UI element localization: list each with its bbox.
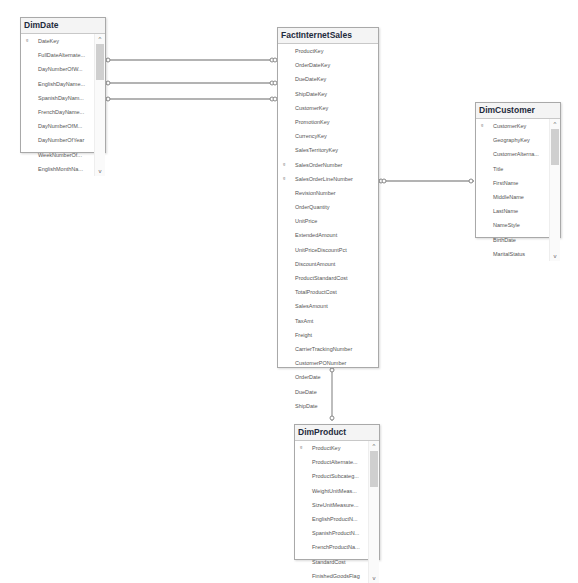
column-name: FinishedGoodsFlag — [312, 573, 360, 579]
column-row[interactable]: PromotionKey — [278, 115, 378, 129]
column-row[interactable]: SizeUnitMeasure... — [295, 498, 379, 512]
column-row[interactable]: SpanishProductN... — [295, 526, 379, 540]
column-row[interactable]: WeightUnitMeas... — [295, 484, 379, 498]
column-row[interactable]: CurrencyKey — [278, 129, 378, 143]
column-row[interactable]: MaritalStatus — [476, 247, 560, 261]
column-name: FullDateAlternate... — [38, 52, 85, 58]
column-row[interactable]: TaxAmt — [278, 314, 378, 328]
column-row[interactable]: ShipDate — [278, 399, 378, 413]
column-name: WeekNumberOf... — [38, 152, 82, 158]
scrollbar[interactable]: ^v — [368, 441, 379, 583]
column-row[interactable]: UnitPrice — [278, 214, 378, 228]
column-row[interactable]: SpanishDayNam... — [21, 91, 105, 105]
column-row[interactable]: Title — [476, 162, 560, 176]
column-row[interactable]: UnitPriceDiscountPct — [278, 243, 378, 257]
column-name: CustomerKey — [493, 123, 526, 129]
column-row[interactable]: SalesAmount — [278, 299, 378, 313]
scroll-up-icon[interactable]: ^ — [550, 119, 560, 129]
column-name: NameStyle — [493, 222, 520, 228]
column-row[interactable]: BirthDate — [476, 233, 560, 247]
column-row[interactable]: LastName — [476, 204, 560, 218]
column-name: BirthDate — [493, 237, 516, 243]
column-row[interactable]: CustomerKey — [278, 101, 378, 115]
column-name: DayNumberOfYear — [38, 137, 84, 143]
column-row[interactable]: ᵍSalesOrderLineNumber — [278, 172, 378, 186]
key-icon: ᵍ — [300, 441, 302, 455]
column-name: MiddleName — [493, 194, 524, 200]
column-row[interactable]: NameStyle — [476, 218, 560, 232]
column-name: Freight — [295, 332, 312, 338]
column-name: CustomerAlterna... — [493, 151, 539, 157]
column-row[interactable]: DayNumberOfW... — [21, 62, 105, 76]
column-row[interactable]: DiscountAmount — [278, 257, 378, 271]
column-row[interactable]: OrderDateKey — [278, 58, 378, 72]
column-row[interactable]: StandardCost — [295, 555, 379, 569]
column-row[interactable]: ᵍDateKey — [21, 34, 105, 48]
column-row[interactable]: CustomerPONumber — [278, 356, 378, 370]
column-row[interactable]: ProductAlternate... — [295, 455, 379, 469]
scroll-down-icon[interactable]: v — [369, 573, 379, 583]
column-row[interactable]: WeekNumberOf... — [21, 148, 105, 162]
column-row[interactable]: FirstName — [476, 176, 560, 190]
column-name: ProductAlternate... — [312, 459, 358, 465]
scroll-down-icon[interactable]: v — [550, 251, 560, 261]
column-row[interactable]: SalesTerritoryKey — [278, 143, 378, 157]
column-name: TotalProductCost — [295, 289, 337, 295]
column-row[interactable]: ProductSubcateg... — [295, 469, 379, 483]
column-row[interactable]: DayNumberOfM... — [21, 119, 105, 133]
column-row[interactable]: RevisionNumber — [278, 186, 378, 200]
column-name: DayNumberOfM... — [38, 123, 82, 129]
column-row[interactable]: ᵍCustomerKey — [476, 119, 560, 133]
column-name: DayNumberOfW... — [38, 66, 83, 72]
table-dimproduct[interactable]: DimProduct ᵍProductKeyProductAlternate..… — [294, 424, 380, 560]
column-row[interactable]: OrderDate — [278, 370, 378, 384]
scroll-up-icon[interactable]: ^ — [369, 441, 379, 451]
column-row[interactable]: MiddleName — [476, 190, 560, 204]
column-row[interactable]: EnglishDayName... — [21, 77, 105, 91]
scrollbar[interactable]: ^v — [549, 119, 560, 261]
table-dimcustomer[interactable]: DimCustomer ᵍCustomerKeyGeographyKeyCust… — [475, 102, 561, 238]
column-row[interactable]: DueDate — [278, 385, 378, 399]
column-row[interactable]: EnglishMonthNa... — [21, 162, 105, 176]
column-name: FrenchProductNa... — [312, 544, 360, 550]
column-row[interactable]: ᵍSalesOrderNumber — [278, 158, 378, 172]
column-name: DueDate — [295, 389, 317, 395]
column-row[interactable]: TotalProductCost — [278, 285, 378, 299]
table-dimdate[interactable]: DimDate ᵍDateKeyFullDateAlternate...DayN… — [20, 17, 106, 153]
column-row[interactable]: FrenchProductNa... — [295, 540, 379, 554]
column-name: CustomerKey — [295, 105, 328, 111]
table-factinternetsales[interactable]: FactInternetSales ProductKeyOrderDateKey… — [277, 27, 379, 368]
column-row[interactable]: EnglishProductN... — [295, 512, 379, 526]
column-row[interactable]: DueDateKey — [278, 72, 378, 86]
scroll-thumb[interactable] — [551, 129, 559, 165]
column-name: UnitPriceDiscountPct — [295, 247, 347, 253]
scroll-down-icon[interactable]: v — [95, 166, 105, 176]
column-row[interactable]: OrderQuantity — [278, 200, 378, 214]
column-row[interactable]: ᵍProductKey — [295, 441, 379, 455]
column-name: DiscountAmount — [295, 261, 335, 267]
column-row[interactable]: FinishedGoodsFlag — [295, 569, 379, 583]
column-name: FirstName — [493, 180, 518, 186]
column-row[interactable]: Freight — [278, 328, 378, 342]
column-row[interactable]: ProductKey — [278, 44, 378, 58]
column-name: OrderDateKey — [295, 62, 330, 68]
column-name: WeightUnitMeas... — [312, 488, 357, 494]
column-row[interactable]: ShipDateKey — [278, 87, 378, 101]
column-row[interactable]: DayNumberOfYear — [21, 133, 105, 147]
column-row[interactable]: FrenchDayName... — [21, 105, 105, 119]
column-name: FrenchDayName... — [38, 109, 84, 115]
column-row[interactable]: GeographyKey — [476, 133, 560, 147]
column-row[interactable]: ExtendedAmount — [278, 228, 378, 242]
column-name: SalesAmount — [295, 303, 328, 309]
scrollbar[interactable]: ^v — [94, 34, 105, 176]
scroll-up-icon[interactable]: ^ — [95, 34, 105, 44]
column-row[interactable]: FullDateAlternate... — [21, 48, 105, 62]
column-row[interactable]: CustomerAlterna... — [476, 147, 560, 161]
scroll-thumb[interactable] — [370, 451, 378, 487]
column-row[interactable]: ProductStandardCost — [278, 271, 378, 285]
column-name: LastName — [493, 208, 518, 214]
column-name: TaxAmt — [295, 318, 313, 324]
scroll-thumb[interactable] — [96, 44, 104, 80]
column-name: EnglishMonthNa... — [38, 166, 83, 172]
column-row[interactable]: CarrierTrackingNumber — [278, 342, 378, 356]
